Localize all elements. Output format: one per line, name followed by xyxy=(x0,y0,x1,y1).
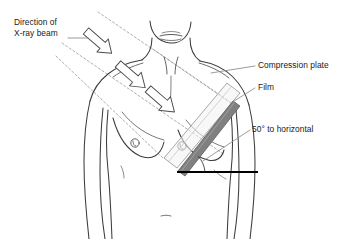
beam-arrow-lower xyxy=(142,82,180,119)
diagram-canvas: Direction of X-ray beam Compression plat… xyxy=(0,0,355,239)
beam-boundary-lower xyxy=(56,56,163,158)
label-angle-to-horizontal: 50° to horizontal xyxy=(252,124,313,135)
beam-arrow-upper xyxy=(80,25,117,60)
compression-plate-face xyxy=(164,83,240,168)
torso-side-right xyxy=(227,112,233,239)
xray-direction-arrows xyxy=(80,25,180,119)
sternal-notch xyxy=(164,57,167,74)
female-torso-outline xyxy=(84,21,255,239)
label-compression-plate: Compression plate xyxy=(258,60,329,71)
compression-plate xyxy=(164,83,240,168)
arm-right-inner xyxy=(234,110,239,239)
neck-right xyxy=(190,38,200,61)
arm-left-inner xyxy=(100,108,105,239)
arm-left-outer xyxy=(84,101,90,239)
nipple-left-detail xyxy=(133,141,136,146)
label-direction-line2: X-ray beam xyxy=(14,28,58,39)
neck-left xyxy=(142,38,152,60)
label-film: Film xyxy=(258,82,274,93)
leader-compression-plate xyxy=(211,66,255,73)
lip-line xyxy=(162,32,180,34)
label-direction-line1: Direction of xyxy=(14,17,58,28)
waist-crease-left xyxy=(121,166,124,178)
mouth-line-2 xyxy=(161,39,181,41)
label-direction-of-xray-beam: Direction of X-ray beam xyxy=(14,17,58,39)
breast-left-upper xyxy=(122,112,164,140)
torso-side-left xyxy=(107,110,113,239)
mouth-line xyxy=(160,35,182,37)
chin-outline xyxy=(150,21,191,43)
navel xyxy=(161,215,171,216)
